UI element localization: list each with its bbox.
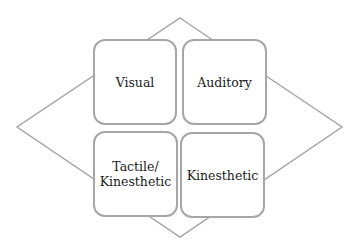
learning-styles-diagram: Visual Auditory Tactile/ Kinesthetic Kin… — [0, 0, 360, 248]
quadrant-label: Auditory — [197, 75, 252, 90]
background-diamond — [0, 0, 360, 248]
quadrant-label: Tactile/ Kinesthetic — [100, 159, 172, 189]
quadrant-label: Kinesthetic — [187, 168, 259, 183]
quadrant-visual: Visual — [93, 39, 177, 125]
quadrant-label: Visual — [116, 75, 155, 90]
quadrant-tactile-kinesthetic: Tactile/ Kinesthetic — [93, 131, 178, 217]
quadrant-kinesthetic: Kinesthetic — [180, 132, 265, 218]
quadrant-auditory: Auditory — [182, 39, 267, 125]
